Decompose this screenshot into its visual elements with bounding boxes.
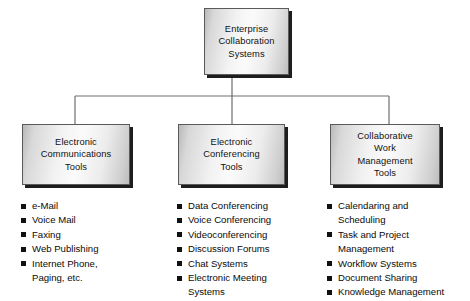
list-item: Web Publishing — [21, 242, 151, 256]
bullet-list-electronic-communications: e-MailVoice MailFaxingWeb PublishingInte… — [21, 199, 151, 285]
square-bullet-icon — [21, 247, 26, 252]
list-item: Electronic Meeting Systems — [177, 271, 322, 300]
list-item: Voice Mail — [21, 213, 151, 227]
square-bullet-icon — [327, 261, 332, 266]
node-electronic-communications-tools[interactable]: Electronic Communications Tools — [22, 124, 130, 185]
list-item: Knowledge Management — [327, 285, 470, 299]
list-item: Data Conferencing — [177, 199, 322, 213]
list-item: Videoconferencing — [177, 228, 322, 242]
list-item-label: Workflow Systems — [338, 258, 417, 269]
list-item-label: Electronic Meeting Systems — [188, 272, 267, 297]
list-item: Internet Phone, Paging, etc. — [21, 257, 151, 286]
square-bullet-icon — [177, 218, 182, 223]
diagram-canvas: Enterprise Collaboration Systems Electro… — [0, 0, 470, 301]
list-item-label: Task and Project Management — [338, 229, 409, 254]
node-label: Enterprise Collaboration Systems — [215, 23, 279, 60]
list-item: Voice Conferencing — [177, 213, 322, 227]
square-bullet-icon — [327, 232, 332, 237]
node-label: Collaborative Work Management Tools — [353, 130, 416, 180]
node-label: Electronic Communications Tools — [37, 136, 116, 173]
square-bullet-icon — [21, 218, 26, 223]
list-item-label: e-Mail — [32, 200, 58, 211]
square-bullet-icon — [327, 276, 332, 281]
list-item-label: Internet Phone, Paging, etc. — [32, 258, 98, 283]
bullet-list-electronic-conferencing: Data ConferencingVoice ConferencingVideo… — [177, 199, 322, 300]
bullet-list-collaborative-work-management: Calendaring and SchedulingTask and Proje… — [327, 199, 470, 300]
list-item-label: Data Conferencing — [188, 200, 268, 211]
list-item: Document Sharing — [327, 271, 470, 285]
list-item-label: Faxing — [32, 229, 61, 240]
square-bullet-icon — [21, 261, 26, 266]
square-bullet-icon — [177, 204, 182, 209]
node-collaborative-work-management-tools[interactable]: Collaborative Work Management Tools — [330, 124, 440, 185]
list-item: Task and Project Management — [327, 228, 470, 257]
list-item: Chat Systems — [177, 257, 322, 271]
list-item: Discussion Forums — [177, 242, 322, 256]
node-enterprise-collaboration-systems[interactable]: Enterprise Collaboration Systems — [204, 8, 289, 75]
list-item-label: Calendaring and Scheduling — [338, 200, 408, 225]
list-item-label: Document Sharing — [338, 272, 417, 283]
node-electronic-conferencing-tools[interactable]: Electronic Conferencing Tools — [178, 124, 285, 185]
square-bullet-icon — [21, 204, 26, 209]
list-item-label: Voice Mail — [32, 214, 76, 225]
list-item-label: Voice Conferencing — [188, 214, 271, 225]
square-bullet-icon — [327, 290, 332, 295]
list-item-label: Chat Systems — [188, 258, 248, 269]
square-bullet-icon — [21, 232, 26, 237]
node-label: Electronic Conferencing Tools — [199, 136, 263, 173]
list-item: Faxing — [21, 228, 151, 242]
list-item: Workflow Systems — [327, 257, 470, 271]
square-bullet-icon — [177, 276, 182, 281]
square-bullet-icon — [327, 204, 332, 209]
list-item-label: Knowledge Management — [338, 286, 444, 297]
list-item-label: Videoconferencing — [188, 229, 267, 240]
list-item: Calendaring and Scheduling — [327, 199, 470, 228]
list-item-label: Discussion Forums — [188, 243, 270, 254]
list-item: e-Mail — [21, 199, 151, 213]
square-bullet-icon — [177, 247, 182, 252]
square-bullet-icon — [177, 261, 182, 266]
square-bullet-icon — [177, 232, 182, 237]
list-item-label: Web Publishing — [32, 243, 99, 254]
